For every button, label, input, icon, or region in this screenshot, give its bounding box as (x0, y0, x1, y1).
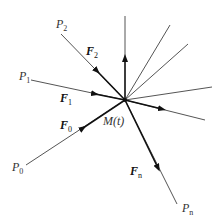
label-f2: F2 (85, 44, 98, 60)
label-center-m-t: M(t) (102, 114, 124, 128)
force-diagram: P2 P1 P0 Pn F2 F1 F0 Fn M(t) (0, 0, 223, 224)
label-p0: P0 (11, 160, 23, 176)
label-p1: P1 (18, 69, 30, 85)
arrow-right-down-icon (125, 100, 162, 109)
label-fn: Fn (129, 164, 142, 180)
force-lines (26, 34, 177, 204)
rays (125, 16, 212, 120)
ray-steep (125, 25, 170, 100)
hub-point (123, 98, 127, 102)
label-p2: P2 (55, 17, 67, 33)
label-f1: F1 (59, 91, 72, 107)
force-arrow-fn (125, 100, 158, 168)
label-f0: F0 (59, 118, 72, 134)
label-pn: Pn (181, 201, 193, 217)
